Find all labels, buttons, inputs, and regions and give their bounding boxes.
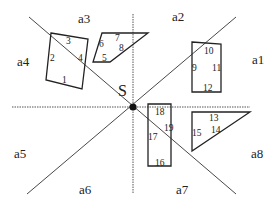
region-label-a1: a1 xyxy=(252,52,264,67)
edge-label-17: 17 xyxy=(148,132,158,142)
edge-label-6: 6 xyxy=(99,39,104,49)
center-point-s xyxy=(129,103,136,110)
region-label-a2: a2 xyxy=(172,9,184,24)
edge-label-4: 4 xyxy=(78,53,83,63)
edge-label-13: 13 xyxy=(209,113,219,123)
edge-label-11: 11 xyxy=(212,63,221,73)
edge-label-18: 18 xyxy=(155,107,165,117)
edge-label-12: 12 xyxy=(203,83,213,93)
edge-label-16: 16 xyxy=(155,158,165,168)
region-label-a6: a6 xyxy=(79,182,92,197)
edge-label-9: 9 xyxy=(192,63,197,73)
region-label-a7: a7 xyxy=(176,182,189,197)
edge-label-10: 10 xyxy=(204,46,214,56)
edge-label-15: 15 xyxy=(192,128,202,138)
edge-label-14: 14 xyxy=(211,125,221,135)
edge-label-7: 7 xyxy=(115,33,120,43)
edge-label-19: 19 xyxy=(164,123,174,133)
edge-label-8: 8 xyxy=(119,43,124,53)
edge-label-1: 1 xyxy=(62,75,67,85)
region-label-a3: a3 xyxy=(78,11,90,26)
edge-label-5: 5 xyxy=(102,53,107,63)
region-label-a8: a8 xyxy=(251,146,263,161)
region-label-a4: a4 xyxy=(17,54,30,69)
direction-diagram: S a1 a2 a3 a4 a5 a6 a7 a8 1 2 3 4 5 6 7 … xyxy=(0,0,277,210)
edge-label-3: 3 xyxy=(66,36,71,46)
edge-label-2: 2 xyxy=(50,53,55,63)
region-label-a5: a5 xyxy=(14,146,26,161)
center-label: S xyxy=(118,82,127,99)
